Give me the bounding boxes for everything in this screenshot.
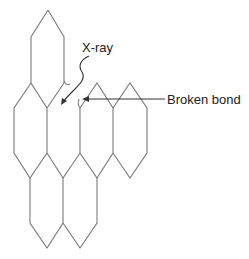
hexagon-top [31, 10, 64, 108]
broken-bond-arrowhead-icon [82, 96, 89, 102]
hexagon-row2-right-a [80, 83, 113, 178]
broken-bond-label: Broken bond [167, 93, 241, 106]
hexagon-row2-right-b [113, 83, 147, 178]
broken-bond-stub-left [64, 81, 70, 85]
hexagon-row2-center [47, 153, 80, 178]
hexagon-row2-left [14, 83, 47, 178]
hexagon-row3-right [63, 178, 97, 248]
xray-wave-arrow [63, 56, 89, 102]
hexagon-lattice [0, 0, 249, 259]
diagram-canvas: X-ray Broken bond [0, 0, 249, 259]
xray-label: X-ray [82, 41, 113, 54]
broken-bond-stub-right [78, 99, 80, 108]
hexagon-row3-left [30, 178, 63, 248]
